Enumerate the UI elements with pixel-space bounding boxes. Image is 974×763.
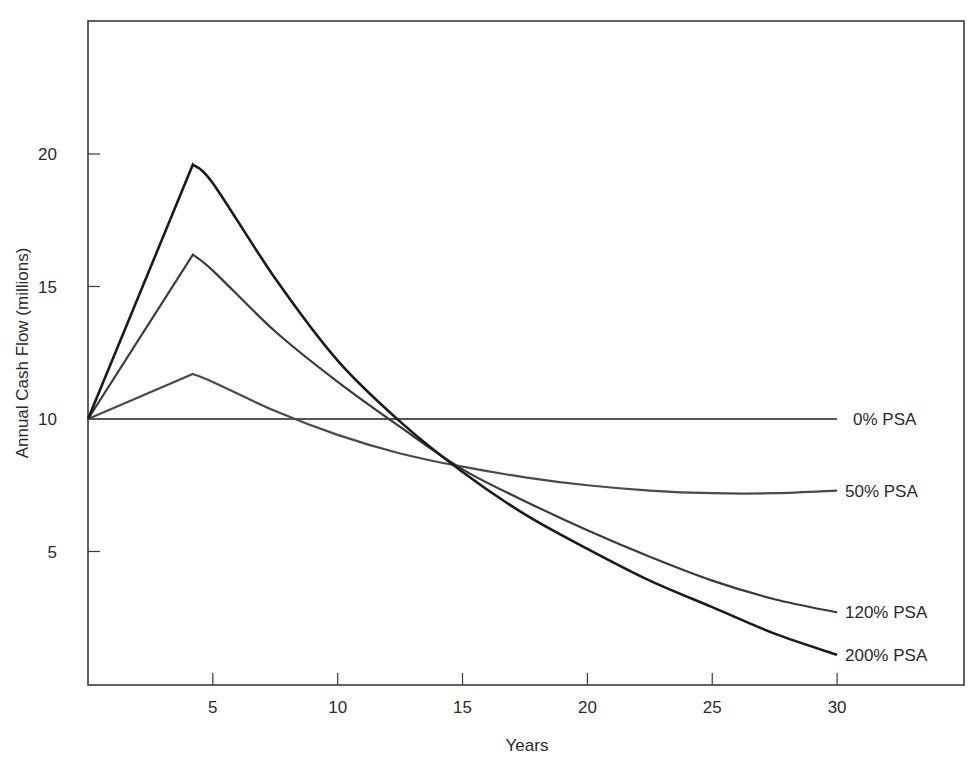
- y-axis-ticks: 5101520: [38, 145, 100, 562]
- series-label: 200% PSA: [845, 646, 928, 665]
- plot-frame: [88, 21, 964, 685]
- x-tick-label: 20: [578, 698, 597, 717]
- series-label: 0% PSA: [853, 410, 917, 429]
- series-line-200-psa: [88, 165, 837, 655]
- line-chart: 5101520 51015202530 0% PSA50% PSA120% PS…: [0, 0, 974, 763]
- y-tick-label: 10: [38, 410, 57, 429]
- x-tick-label: 30: [828, 698, 847, 717]
- series-line-50-psa: [88, 374, 837, 494]
- y-tick-label: 20: [38, 145, 57, 164]
- x-tick-label: 15: [453, 698, 472, 717]
- y-tick-label: 5: [48, 543, 57, 562]
- series-label: 50% PSA: [845, 482, 918, 501]
- series-label: 120% PSA: [845, 603, 928, 622]
- y-tick-label: 15: [38, 278, 57, 297]
- y-axis-title: Annual Cash Flow (millions): [13, 248, 32, 459]
- series-line-120-psa: [88, 255, 837, 613]
- series-lines: [88, 165, 837, 655]
- x-tick-label: 5: [208, 698, 217, 717]
- series-labels: 0% PSA50% PSA120% PSA200% PSA: [845, 410, 928, 665]
- x-tick-label: 25: [703, 698, 722, 717]
- x-axis-title: Years: [506, 736, 549, 755]
- x-axis-ticks: 51015202530: [208, 673, 846, 717]
- x-tick-label: 10: [328, 698, 347, 717]
